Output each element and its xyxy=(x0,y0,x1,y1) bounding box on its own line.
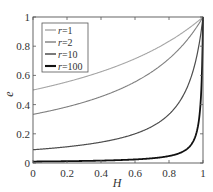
y-axis-label: e xyxy=(2,91,16,97)
x-tick-label: 0.4 xyxy=(94,167,108,179)
legend-item-label: r=1 xyxy=(58,25,73,36)
x-tick-label: 0.8 xyxy=(162,167,176,179)
x-tick-label: 0.2 xyxy=(60,167,74,179)
x-tick-label: 1 xyxy=(200,167,206,179)
x-axis-label: H xyxy=(112,176,123,190)
y-tick-label: 0.4 xyxy=(16,99,30,111)
legend-item-label: r=2 xyxy=(58,37,73,48)
legend: r=1r=2r=10r=100 xyxy=(42,23,88,72)
chart: 00.20.40.60.8100.20.40.60.81 r=1r=2r=10r… xyxy=(0,0,213,192)
y-tick-label: 0.2 xyxy=(16,128,30,140)
y-tick-label: 0.8 xyxy=(16,40,30,52)
x-tick-label: 0 xyxy=(30,167,36,179)
y-tick-label: 1 xyxy=(25,11,31,23)
legend-item-label: r=100 xyxy=(58,61,83,72)
y-tick-label: 0.6 xyxy=(16,69,30,81)
x-tick-label: 0.6 xyxy=(128,167,142,179)
legend-item-label: r=10 xyxy=(58,49,78,60)
y-tick-label: 0 xyxy=(25,157,31,169)
